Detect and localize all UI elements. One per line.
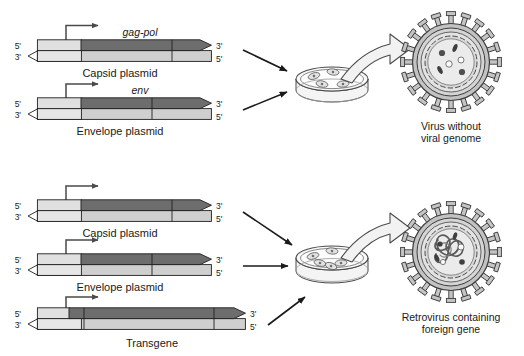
figure-canvas: 5' 3' 3' 5' gag-pol Capsid plasmid 5' 3'… [0, 0, 524, 356]
label-3prime-right: 3' [216, 99, 223, 109]
label-5prime-left: 5' [15, 41, 22, 51]
construct-caption: Capsid plasmid [82, 67, 157, 79]
label-5prime-left: 5' [15, 309, 22, 319]
construct-caption: Capsid plasmid [82, 227, 157, 239]
label-3prime-right: 3' [216, 41, 223, 51]
label-5prime-right: 5' [250, 322, 257, 332]
label-3prime-right: 3' [250, 309, 257, 319]
product-caption-line2: viral genome [421, 132, 481, 144]
gene-label-env: env [132, 84, 150, 96]
label-3prime-right: 3' [216, 201, 223, 211]
product-caption-line2: foreign gene [422, 323, 481, 335]
gene-label-gag-pol: gag-pol [122, 26, 158, 38]
construct-caption: Envelope plasmid [77, 281, 164, 293]
label-5prime-right: 5' [216, 268, 223, 278]
label-3prime-left: 3' [15, 212, 22, 222]
construct-caption: Transgene [126, 337, 178, 349]
product-caption-line1: Virus without [421, 120, 481, 132]
label-3prime-left: 3' [15, 110, 22, 120]
label-3prime-left: 3' [15, 320, 22, 330]
label-3prime-left: 3' [15, 266, 22, 276]
diagram-svg: 5' 3' 3' 5' gag-pol Capsid plasmid 5' 3'… [0, 0, 524, 356]
virus-particle-loaded[interactable]: Retrovirus containing foreign gene [401, 202, 502, 335]
label-5prime-left: 5' [15, 201, 22, 211]
label-5prime-left: 5' [15, 99, 22, 109]
product-caption-line1: Retrovirus containing [402, 311, 501, 323]
label-5prime-right: 5' [216, 112, 223, 122]
label-5prime-right: 5' [216, 214, 223, 224]
label-5prime-right: 5' [216, 54, 223, 64]
label-5prime-left: 5' [15, 255, 22, 265]
construct-caption: Envelope plasmid [77, 125, 164, 137]
label-3prime-left: 3' [15, 52, 22, 62]
label-3prime-right: 3' [216, 255, 223, 265]
